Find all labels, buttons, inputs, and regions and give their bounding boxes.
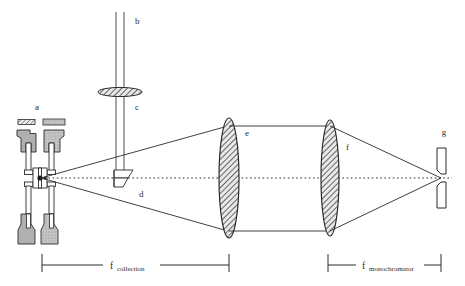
label-c: c: [135, 102, 139, 112]
label-d: d: [139, 189, 144, 199]
label-f: f: [346, 142, 349, 152]
upper-right-anvil: [49, 143, 54, 172]
upper-left-anvil: [26, 143, 31, 172]
optical-diagram: a b c d e f: [0, 0, 465, 286]
lower-right-bore: [50, 214, 54, 228]
label-e: e: [245, 128, 249, 138]
label-b: b: [135, 16, 140, 26]
lower-right-anvil: [49, 186, 54, 214]
dimension-subscript-monochromator: monochromator: [369, 265, 414, 273]
label-a: a: [35, 102, 39, 112]
dimension-subscript-collection: collection: [117, 265, 145, 273]
diagram-canvas: a b c d e f: [0, 0, 465, 286]
lower-left-anvil: [26, 186, 31, 214]
label-g: g: [442, 127, 447, 137]
slit-jaw-upper: [437, 148, 446, 174]
slit-jaw-lower: [437, 182, 446, 208]
lower-left-bore: [27, 214, 31, 228]
